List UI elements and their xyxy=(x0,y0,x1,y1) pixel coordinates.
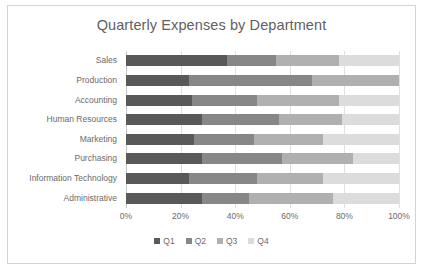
legend-label: Q1 xyxy=(163,236,174,246)
legend-item-q1[interactable]: Q1 xyxy=(154,236,174,246)
bar-segment-q1[interactable] xyxy=(126,55,227,66)
bar-row[interactable] xyxy=(126,95,399,106)
legend-item-q4[interactable]: Q4 xyxy=(248,236,268,246)
y-axis-category-labels: SalesProductionAccountingHuman Resources… xyxy=(8,51,122,208)
legend-item-q3[interactable]: Q3 xyxy=(217,236,237,246)
bar-segment-q1[interactable] xyxy=(126,114,202,125)
bar-segment-q1[interactable] xyxy=(126,75,189,86)
legend-item-q2[interactable]: Q2 xyxy=(186,236,206,246)
bar-row[interactable] xyxy=(126,75,399,86)
bar-segment-q2[interactable] xyxy=(202,153,281,164)
bar-segment-q1[interactable] xyxy=(126,95,192,106)
bar-row[interactable] xyxy=(126,193,399,204)
y-axis-label: Information Technology xyxy=(29,173,117,184)
y-axis-label: Marketing xyxy=(80,134,117,145)
chart-legend: Q1Q2Q3Q4 xyxy=(8,236,415,246)
bar-segment-q2[interactable] xyxy=(202,193,248,204)
bar-segment-q4[interactable] xyxy=(323,134,399,145)
bar-segment-q3[interactable] xyxy=(312,75,399,86)
bar-segment-q4[interactable] xyxy=(339,55,399,66)
bar-segment-q2[interactable] xyxy=(189,173,257,184)
y-axis-label: Human Resources xyxy=(47,114,117,125)
chart-title: Quarterly Expenses by Department xyxy=(8,17,415,33)
legend-label: Q2 xyxy=(195,236,206,246)
bar-segment-q4[interactable] xyxy=(339,95,399,106)
bar-segment-q3[interactable] xyxy=(282,153,353,164)
legend-swatch-icon xyxy=(186,238,192,244)
y-axis-label: Accounting xyxy=(75,95,117,106)
bar-segment-q3[interactable] xyxy=(276,55,339,66)
x-axis-tick-label: 40% xyxy=(227,211,244,221)
x-axis-tick-labels: 0%20%40%60%80%100% xyxy=(126,211,399,225)
bar-row[interactable] xyxy=(126,153,399,164)
bar-segment-q4[interactable] xyxy=(333,193,399,204)
bar-segment-q2[interactable] xyxy=(227,55,276,66)
y-axis-label: Purchasing xyxy=(74,153,117,164)
x-axis-tick-label: 80% xyxy=(336,211,353,221)
bar-segment-q1[interactable] xyxy=(126,193,202,204)
bar-segment-q2[interactable] xyxy=(189,75,312,86)
gridline-100 xyxy=(399,51,400,208)
legend-swatch-icon xyxy=(154,238,160,244)
legend-swatch-icon xyxy=(248,238,254,244)
x-axis-tick-label: 100% xyxy=(388,211,410,221)
bar-row[interactable] xyxy=(126,114,399,125)
legend-label: Q3 xyxy=(226,236,237,246)
bar-segment-q3[interactable] xyxy=(249,193,334,204)
x-axis-tick-label: 0% xyxy=(120,211,132,221)
bar-segment-q2[interactable] xyxy=(192,95,258,106)
bar-row[interactable] xyxy=(126,173,399,184)
y-axis-label: Administrative xyxy=(64,193,117,204)
bar-segment-q4[interactable] xyxy=(342,114,399,125)
bar-segment-q3[interactable] xyxy=(257,173,323,184)
bar-segment-q1[interactable] xyxy=(126,134,194,145)
bar-segment-q3[interactable] xyxy=(257,95,339,106)
chart-container: Quarterly Expenses by Department SalesPr… xyxy=(7,5,416,264)
bar-segment-q3[interactable] xyxy=(279,114,342,125)
bar-segment-q4[interactable] xyxy=(353,153,399,164)
bar-segment-q1[interactable] xyxy=(126,173,189,184)
legend-label: Q4 xyxy=(257,236,268,246)
y-axis-label: Sales xyxy=(96,55,117,66)
bar-series-group xyxy=(126,51,399,208)
bar-segment-q4[interactable] xyxy=(323,173,399,184)
bar-segment-q2[interactable] xyxy=(202,114,278,125)
x-axis-tick-label: 20% xyxy=(172,211,189,221)
bar-segment-q3[interactable] xyxy=(254,134,322,145)
plot-area xyxy=(126,51,399,208)
legend-swatch-icon xyxy=(217,238,223,244)
bar-segment-q1[interactable] xyxy=(126,153,202,164)
x-axis-tick-label: 60% xyxy=(281,211,298,221)
bar-segment-q2[interactable] xyxy=(194,134,254,145)
bar-row[interactable] xyxy=(126,134,399,145)
y-axis-label: Production xyxy=(76,75,117,86)
bar-row[interactable] xyxy=(126,55,399,66)
